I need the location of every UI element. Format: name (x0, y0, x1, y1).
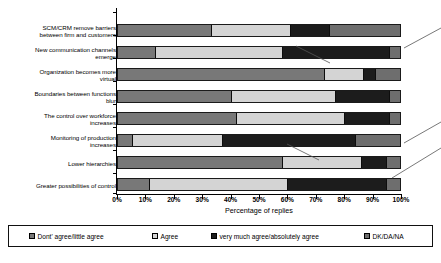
category-label: Boundaries between functions blur (8, 90, 116, 105)
bar-segment (236, 113, 343, 124)
bar-segment (361, 157, 386, 168)
category-label: Monitoring of production increases (8, 134, 116, 149)
category-label-line: Organization becomes more (8, 68, 116, 75)
legend-item[interactable]: DK/DA/NA (364, 233, 404, 240)
bar-segment (155, 47, 282, 58)
stacked-bar-chart: SCM/CRM remove barriers between firm and… (0, 0, 441, 263)
category-label-line: Lower hierarchies (8, 160, 116, 167)
bar-row (117, 90, 401, 103)
legend-swatch-icon (211, 233, 217, 239)
bar-segment (118, 135, 132, 146)
bar-segment (132, 135, 222, 146)
category-label-line: between firm and customers (8, 31, 116, 38)
y-axis-tick (113, 127, 117, 128)
legend-swatch-icon (152, 233, 158, 239)
category-label-line: blur (8, 97, 116, 104)
legend-label: Agree (161, 233, 179, 240)
x-axis-tick-label: 40% (224, 196, 237, 203)
bar-row (117, 24, 401, 37)
bar-segment (329, 25, 400, 36)
category-label-line: virtual (8, 75, 116, 82)
x-axis-title: Percentage of replies (117, 206, 401, 215)
x-axis-tick-label: 80% (338, 196, 351, 203)
bar-segment (335, 91, 389, 102)
category-label-line: Greater possibilities of control (8, 182, 116, 189)
category-label: The control over workforce increases (8, 112, 116, 127)
bar-segment (118, 69, 324, 80)
category-label: Organization becomes more virtual (8, 68, 116, 83)
x-axis-tick-label: 90% (366, 196, 379, 203)
legend-item[interactable]: Agree (152, 233, 178, 240)
x-axis-tick-label: 60% (281, 196, 294, 203)
bar-segment (386, 179, 400, 190)
x-axis-tick-label: 100% (393, 196, 410, 203)
category-label-line: New communication channels (8, 46, 116, 53)
x-axis-tick-label: 30% (196, 196, 209, 203)
x-axis-tick-label: 70% (309, 196, 322, 203)
y-axis-tick (113, 173, 117, 174)
category-label-line: emerge (8, 53, 116, 60)
x-axis-tick-label: 20% (167, 196, 180, 203)
bar-segment (222, 135, 355, 146)
bar-segment (324, 69, 363, 80)
legend-swatch-icon (29, 233, 35, 239)
category-label-line: SCM/CRM remove barriers (8, 24, 116, 31)
y-axis-category-labels: SCM/CRM remove barriers between firm and… (8, 8, 116, 194)
y-axis-tick (113, 150, 117, 151)
bar-row (117, 156, 401, 169)
bar-row (117, 46, 401, 59)
bar-segment (290, 25, 329, 36)
bar-segment (118, 179, 149, 190)
category-label-line: The control over workforce (8, 112, 116, 119)
bar-segment (118, 157, 282, 168)
bar-row (117, 112, 401, 125)
bar-segment (282, 157, 361, 168)
legend-label: Dont' agree/little agree (38, 233, 104, 240)
bar-segment (118, 113, 236, 124)
y-axis-tick (113, 12, 117, 13)
legend-label: DK/DA/NA (373, 233, 404, 240)
x-axis-tick-label: 50% (252, 196, 265, 203)
bar-segment (231, 91, 335, 102)
bar-segment (118, 91, 231, 102)
category-label-line: Monitoring of production (8, 134, 116, 141)
bar-segment (118, 25, 211, 36)
category-label-line: Boundaries between functions (8, 90, 116, 97)
legend-item[interactable]: very much agree/absolutely agree (211, 233, 319, 240)
legend-swatch-icon (364, 233, 370, 239)
bar-row (117, 68, 401, 81)
bar-segment (118, 47, 155, 58)
bar-segment (375, 69, 400, 80)
x-axis-tick-label: 0% (112, 196, 122, 203)
bar-segment (389, 91, 400, 102)
legend: Dont' agree/little agree Agree very much… (8, 225, 433, 247)
bar-row (117, 178, 401, 191)
bar-segment (344, 113, 389, 124)
plot-area: SCM/CRM remove barriers between firm and… (0, 8, 441, 194)
bar-segment (389, 113, 400, 124)
bar-segment (386, 157, 400, 168)
y-axis-tick (113, 104, 117, 105)
category-label: Lower hierarchies (8, 160, 116, 167)
category-label: New communication channels emerge (8, 46, 116, 61)
x-axis-tick-label: 10% (139, 196, 152, 203)
axes (117, 8, 401, 194)
legend-label: very much agree/absolutely agree (220, 233, 319, 240)
category-label: SCM/CRM remove barriers between firm and… (8, 24, 116, 39)
y-axis-tick (113, 81, 117, 82)
bar-segment (389, 47, 400, 58)
category-label-line: increases (8, 141, 116, 148)
bar-segment (355, 135, 400, 146)
legend-item[interactable]: Dont' agree/little agree (29, 233, 104, 240)
bar-row (117, 134, 401, 147)
category-label: Greater possibilities of control (8, 182, 116, 189)
bar-segment (363, 69, 374, 80)
category-label-line: increases (8, 119, 116, 126)
bar-segment (211, 25, 290, 36)
bar-segment (282, 47, 389, 58)
bar-segment (149, 179, 287, 190)
bar-segment (287, 179, 386, 190)
